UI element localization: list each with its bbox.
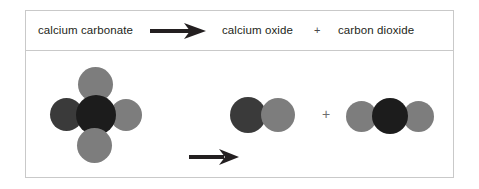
word-plus-sign: + [314, 11, 321, 50]
calcium-carbonate-model [50, 66, 146, 162]
oxygen-atom [77, 128, 112, 163]
reaction-arrow-icon [189, 149, 239, 165]
reaction-figure: calcium carbonate calcium oxide + carbon… [25, 10, 454, 178]
particle-model-panel: + [26, 51, 453, 178]
word-product-carbon-dioxide: carbon dioxide [338, 11, 414, 50]
word-product-calcium-oxide: calcium oxide [222, 11, 293, 50]
carbon-dioxide-model [346, 98, 434, 134]
model-plus-sign: + [322, 107, 330, 121]
oxygen-atom [261, 98, 295, 132]
word-equation-panel: calcium carbonate calcium oxide + carbon… [26, 11, 453, 51]
calcium-oxide-model [230, 97, 300, 133]
word-reactant-calcium-carbonate: calcium carbonate [38, 11, 133, 50]
reaction-arrow-icon [150, 23, 206, 39]
carbon-atom [372, 98, 408, 134]
